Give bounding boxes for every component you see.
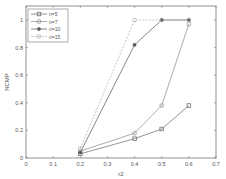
x-axis-label: r2 [118, 171, 124, 177]
chart-canvas: 00.10.20.30.40.50.60.7 00.20.40.60.81 r2… [0, 0, 226, 179]
y-tick-label: 1 [20, 17, 23, 23]
x-tick-label: 0.3 [104, 161, 112, 167]
x-tick-label: 0.7 [212, 161, 220, 167]
x-tick-label: 0 [24, 161, 27, 167]
legend: n=5n=7n=10n=15 [28, 9, 68, 42]
y-axis-label: NCMP [4, 73, 10, 91]
x-tick-label: 0.1 [49, 161, 57, 167]
y-tick-label: 0 [20, 155, 23, 161]
line-chart: 00.10.20.30.40.50.60.7 00.20.40.60.81 r2… [0, 0, 226, 179]
x-tick-label: 0.5 [158, 161, 166, 167]
y-tick-label: 0.4 [15, 100, 23, 106]
y-tick-label: 0.8 [15, 45, 23, 51]
legend-label: n=10 [49, 26, 60, 32]
legend-label: n=7 [49, 19, 58, 25]
x-tick-label: 0.6 [185, 161, 193, 167]
x-tick-label: 0.2 [76, 161, 84, 167]
x-tick-label: 0.4 [131, 161, 139, 167]
legend-label: n=15 [49, 34, 60, 40]
y-tick-label: 0.6 [15, 72, 23, 78]
legend-label: n=5 [49, 11, 58, 17]
y-tick-label: 0.2 [15, 127, 23, 133]
